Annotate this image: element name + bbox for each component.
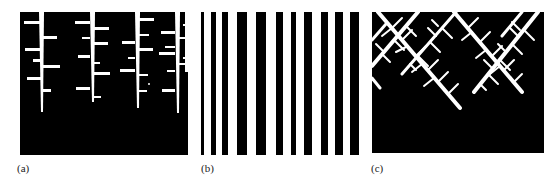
- panel-a-label: (a): [17, 162, 29, 174]
- panel-b-label: (b): [201, 162, 214, 174]
- panel-c-image: [372, 12, 544, 153]
- panel-a-image: [20, 12, 188, 155]
- panel-b-image: [201, 12, 359, 155]
- panel-c-label: (c): [371, 162, 383, 174]
